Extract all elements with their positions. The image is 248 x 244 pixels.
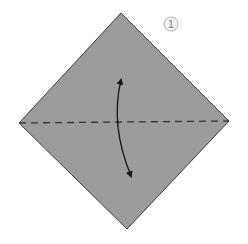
paper-square [19,13,229,229]
step-number: 1 [168,19,174,30]
step-number-badge: 1 [164,17,178,31]
origami-diagram: 1 [0,0,248,244]
